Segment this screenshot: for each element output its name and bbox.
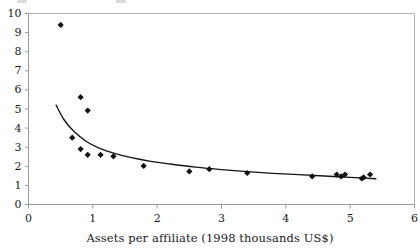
data-point-marker <box>206 166 212 172</box>
x-tick-label: 2 <box>154 212 161 225</box>
y-tick-label: 4 <box>15 122 22 135</box>
data-point-marker <box>367 171 373 177</box>
scatter-plot-canvas: 012345678910 0123456 <box>0 0 420 251</box>
y-tick-label: 8 <box>15 45 22 58</box>
data-point-marker <box>85 107 91 113</box>
trend-curve <box>56 105 376 179</box>
y-tick-label: 9 <box>15 26 22 39</box>
data-point-marker <box>186 168 192 174</box>
y-tick-label: 3 <box>15 141 22 154</box>
x-tick-label: 1 <box>89 212 96 225</box>
data-point-marker <box>78 146 84 152</box>
chart-figure: 012345678910 0123456 Assets per affiliat… <box>0 0 420 251</box>
y-tick-label: 5 <box>15 103 22 116</box>
data-point-marker <box>69 135 75 141</box>
data-point-marker <box>58 22 64 28</box>
y-tick-label: 10 <box>8 7 22 20</box>
y-tick-label: 7 <box>15 64 22 77</box>
data-point-markers <box>58 22 374 182</box>
data-point-marker <box>97 152 103 158</box>
y-axis-ticks: 012345678910 <box>8 7 29 211</box>
x-tick-label: 0 <box>25 212 32 225</box>
y-tick-label: 0 <box>15 198 22 211</box>
x-tick-label: 3 <box>218 212 225 225</box>
y-tick-label: 1 <box>15 179 22 192</box>
data-point-marker <box>141 163 147 169</box>
x-tick-label: 5 <box>347 212 354 225</box>
x-tick-label: 6 <box>411 212 418 225</box>
data-point-marker <box>309 173 315 179</box>
x-axis-title: Assets per affiliate (1998 thousands US$… <box>0 231 420 245</box>
y-tick-label: 2 <box>15 160 22 173</box>
x-tick-label: 4 <box>282 212 289 225</box>
y-tick-label: 6 <box>15 83 22 96</box>
data-point-marker <box>78 94 84 100</box>
trend-curve-group <box>56 105 376 179</box>
x-axis-ticks: 0123456 <box>25 205 418 225</box>
data-point-marker <box>85 152 91 158</box>
